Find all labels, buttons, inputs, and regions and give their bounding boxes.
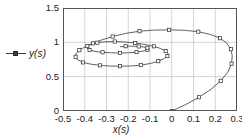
y-tick-label: 1 <box>33 36 59 47</box>
spiral-plot-svg <box>63 8 237 111</box>
chart-figure: y(s) 00.511.5 -0.5-0.4-0.3-0.2-0.100.10.… <box>0 0 242 140</box>
legend: y(s) <box>6 48 46 59</box>
x-axis-label: x(s) <box>0 124 242 135</box>
y-tick-label: 0.5 <box>33 71 59 82</box>
data-point-markers <box>74 28 233 111</box>
gridlines <box>63 8 237 111</box>
legend-label: y(s) <box>29 48 46 59</box>
legend-line-marker-icon <box>6 50 26 57</box>
x-tick-label: 0.3 <box>224 113 242 124</box>
plot-area <box>63 8 237 111</box>
y-tick-label: 1.5 <box>33 2 59 13</box>
